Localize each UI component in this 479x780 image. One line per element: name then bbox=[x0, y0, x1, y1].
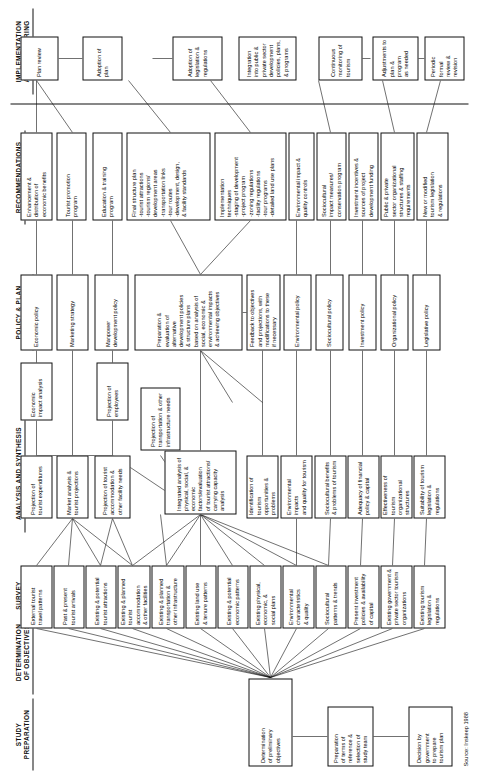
node-impl-integration-policies[interactable]: Integration into public & private sector… bbox=[238, 36, 296, 80]
node-survey-land-use-tenure[interactable]: Existing land use & tenure patterns bbox=[185, 565, 216, 628]
node-survey-tourist-attractions[interactable]: Existing & potential tourist attractions bbox=[85, 565, 116, 628]
node-analysis-organizational-effectiveness[interactable]: Effectiveness of tourism organizational … bbox=[380, 455, 412, 518]
node-analysis-market-analysis[interactable]: Market analysis & tourist projections bbox=[56, 455, 88, 518]
node-analysis-tourist-expenditures[interactable]: Projection of tourist expenditures bbox=[20, 455, 52, 518]
node-analysis-transportation-needs[interactable]: Projection of transportation & other inf… bbox=[140, 387, 180, 450]
node-policy-marketing-strategy[interactable]: Marketing strategy bbox=[56, 274, 88, 350]
node-policy-preparation-evaluation[interactable]: Preparation & evaluation of alternative … bbox=[134, 274, 242, 350]
node-analysis-legislation-suitability[interactable]: Suitability of tourism legislation & reg… bbox=[413, 455, 445, 518]
node-policy-sociocultural[interactable]: Sociocultural policy bbox=[315, 274, 343, 350]
node-survey-environmental-characteristics[interactable]: Environmental characteristics & quality bbox=[282, 565, 314, 628]
node-survey-past-present-arrivals[interactable]: Past & present tourist arrivals bbox=[53, 565, 84, 628]
node-impl-plan-review[interactable]: Plan review bbox=[20, 36, 58, 80]
node-analysis-environmental-impacts[interactable]: Environmental impacts and quality for to… bbox=[280, 455, 312, 518]
node-survey-sociocultural-patterns[interactable]: Sociocultural patterns & trends bbox=[315, 565, 346, 628]
node-policy-legislative[interactable]: Legislative policy bbox=[412, 274, 440, 350]
node-policy-organizational[interactable]: Organizational policy bbox=[380, 274, 408, 350]
node-rec-economic-benefits[interactable]: Enhancement & distribution of economic b… bbox=[20, 132, 52, 220]
node-analysis-sociocultural-benefits[interactable]: Sociocultural benefits & problems of tou… bbox=[314, 455, 346, 518]
node-rec-environmental-controls[interactable]: Environmental impact & quality controls bbox=[288, 132, 314, 220]
node-policy-environmental[interactable]: Environmental policy bbox=[283, 274, 311, 350]
node-survey-external-travel-patterns[interactable]: External tourist travel patterns bbox=[20, 565, 52, 628]
node-policy-manpower-development[interactable]: Manpower development policy bbox=[94, 274, 128, 350]
node-policy-economic[interactable]: Economic policy bbox=[20, 274, 52, 350]
node-analysis-projection-employees[interactable]: Projection of employees bbox=[96, 362, 128, 420]
node-survey-tourism-organizations[interactable]: Existing government & private sector tou… bbox=[380, 565, 412, 628]
stage-label-study-preparation: STUDY PREPARATION bbox=[14, 698, 33, 770]
node-preliminary-objectives[interactable]: Determination of preliminary objectives bbox=[248, 678, 292, 766]
node-impl-continuous-monitoring[interactable]: Continuous monitoring of tourism bbox=[318, 36, 362, 80]
node-rec-tourist-promotion[interactable]: Tourist promotion program bbox=[56, 132, 86, 220]
node-rec-implementation-techniques[interactable]: Implementation techniques -staging of de… bbox=[214, 132, 286, 220]
node-analysis-tourism-opportunities[interactable]: Identification of tourism opportunities … bbox=[246, 455, 278, 518]
node-rec-investment-incentives[interactable]: Investment incentives & sources of proje… bbox=[348, 132, 378, 220]
node-decision-by-government[interactable]: Decision by government to prepare touris… bbox=[408, 706, 452, 766]
node-survey-economic-patterns[interactable]: Existing & potential economic patterns bbox=[217, 565, 248, 628]
node-policy-feedback[interactable]: Feedback to objectives and projections, … bbox=[246, 274, 280, 350]
connector-lines bbox=[0, 0, 479, 780]
node-impl-periodic-review[interactable]: Periodic formal review & revision bbox=[424, 36, 464, 80]
node-analysis-accommodation-needs[interactable]: Projection of tourist accommodation & ot… bbox=[94, 455, 130, 518]
node-survey-accommodation-facilities[interactable]: Existing & planned tourist accommodation… bbox=[117, 565, 150, 628]
node-rec-tourism-legislation[interactable]: New or modified tourism legislation & re… bbox=[416, 132, 448, 220]
node-impl-adoption-of-plan[interactable]: Adoption of plan bbox=[82, 36, 122, 80]
stage-divider bbox=[10, 103, 468, 104]
node-impl-adjustments[interactable]: Adjustments to plan & program as needed bbox=[372, 36, 418, 80]
node-survey-physical-economic-social-plans[interactable]: Existing physical, economic, & social pl… bbox=[249, 565, 281, 628]
flowchart-canvas: STUDY PREPARATION DETERMINATION OF OBJEC… bbox=[0, 0, 479, 780]
rotated-diagram-wrapper: STUDY PREPARATION DETERMINATION OF OBJEC… bbox=[0, 0, 479, 780]
node-analysis-economic-impact[interactable]: Economic impact analysis bbox=[20, 362, 52, 420]
node-survey-investment-policies[interactable]: Present investment policies & availabili… bbox=[347, 565, 379, 628]
node-impl-adoption-legislation[interactable]: Adoption of legislation & regulations bbox=[172, 36, 222, 80]
node-survey-tourism-legislation[interactable]: Existing tourism legislation & regulatio… bbox=[413, 565, 445, 628]
node-rec-education-training[interactable]: Education & training program bbox=[92, 132, 122, 220]
node-rec-sociocultural-measures[interactable]: Sociocultural impact measures/ conservat… bbox=[316, 132, 346, 220]
source-note: Source: Inskeep 1988 bbox=[462, 712, 468, 766]
node-survey-transportation-infrastructure[interactable]: Existing & planned transportation & othe… bbox=[151, 565, 184, 628]
node-policy-investment[interactable]: Investment policy bbox=[348, 274, 376, 350]
node-rec-final-structure-plan[interactable]: Final structure plan -tourist attraction… bbox=[126, 132, 210, 220]
node-analysis-integrated-analysis[interactable]: Integrated analysis of physical, social,… bbox=[164, 450, 236, 514]
node-analysis-financial-adequacy[interactable]: Adequacy of financial policy & capital bbox=[347, 455, 379, 518]
node-rec-organizational-structures[interactable]: Public & private sector organizational s… bbox=[380, 132, 414, 220]
node-terms-of-reference[interactable]: Preparation of terms of reference & sele… bbox=[327, 706, 373, 766]
